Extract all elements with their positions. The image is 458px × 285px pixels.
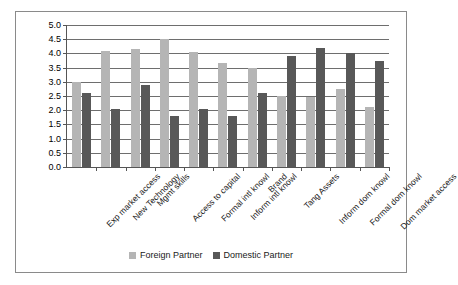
bar-group (184, 25, 213, 167)
chart-frame: 0.00.51.01.52.02.53.03.54.04.55.0 Exp ma… (15, 11, 407, 273)
bar (101, 51, 110, 167)
bar (72, 82, 81, 167)
x-axis-tick-mark (243, 167, 244, 171)
bar (218, 63, 227, 167)
legend-swatch-domestic (213, 252, 220, 259)
bar (160, 39, 169, 167)
x-axis-tick-mark (213, 167, 214, 171)
bar (131, 49, 140, 167)
bar-group (330, 25, 359, 167)
x-axis-tick-mark (360, 167, 361, 171)
y-axis-tick-label: 2.5 (48, 92, 61, 101)
legend-swatch-foreign (129, 252, 136, 259)
bar-group (96, 25, 125, 167)
bar (365, 107, 374, 167)
bar (346, 53, 355, 167)
bar-group (301, 25, 330, 167)
x-axis-tick-mark (272, 167, 273, 171)
bar (199, 109, 208, 167)
y-axis-tick-label: 2.0 (48, 106, 61, 115)
y-axis-tick-label: 0.0 (48, 163, 61, 172)
bar (141, 85, 150, 167)
bar-group (243, 25, 272, 167)
bar (111, 109, 120, 167)
bar (258, 93, 267, 167)
y-axis-tick-label: 4.0 (48, 49, 61, 58)
bar (277, 96, 286, 167)
bar-group (67, 25, 96, 167)
x-axis-label: Access to capital (191, 172, 242, 223)
bar (375, 61, 384, 168)
bar-series-container (67, 25, 389, 167)
x-axis-tick-mark (389, 167, 390, 171)
bar (336, 89, 345, 167)
legend-label: Domestic Partner (224, 250, 294, 260)
bar (306, 97, 315, 167)
x-axis-tick-mark (96, 167, 97, 171)
y-axis-tick-label: 1.5 (48, 120, 61, 129)
legend-item: Foreign Partner (129, 250, 203, 260)
bar (316, 48, 325, 167)
bar-group (126, 25, 155, 167)
bar (228, 116, 237, 167)
y-axis-tick-label: 5.0 (48, 21, 61, 30)
plot-area: 0.00.51.01.52.02.53.03.54.04.55.0 (66, 25, 389, 168)
bar (189, 52, 198, 167)
x-axis-tick-mark (330, 167, 331, 171)
legend-item: Domestic Partner (213, 250, 294, 260)
bar (170, 116, 179, 167)
y-axis-tick-label: 4.5 (48, 35, 61, 44)
y-axis-tick-label: 0.5 (48, 148, 61, 157)
bar-group (272, 25, 301, 167)
bar-group (213, 25, 242, 167)
y-axis-tick-label: 3.0 (48, 77, 61, 86)
bar (287, 56, 296, 167)
y-axis-tick-label: 3.5 (48, 63, 61, 72)
x-axis-tick-mark (126, 167, 127, 171)
legend-label: Foreign Partner (140, 250, 203, 260)
chart-legend: Foreign PartnerDomestic Partner (16, 250, 406, 260)
y-axis-tick-label: 1.0 (48, 134, 61, 143)
x-axis-tick-mark (301, 167, 302, 171)
bar-group (360, 25, 389, 167)
y-axis-tick-mark (63, 167, 67, 168)
bar (82, 93, 91, 167)
bar (248, 68, 257, 167)
bar-group (155, 25, 184, 167)
x-axis-label: Tang Assets (302, 172, 340, 210)
